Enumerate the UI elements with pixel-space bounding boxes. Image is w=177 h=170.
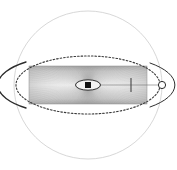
- central-black-square: [85, 82, 91, 88]
- right-vertex-node-circle: [158, 81, 165, 88]
- diagram-canvas: [0, 0, 177, 170]
- figure-container: [0, 0, 177, 170]
